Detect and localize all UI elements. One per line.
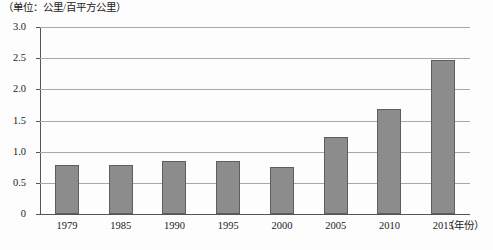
chart-unit-caption: （单位：公里/百平方公里） (3, 1, 126, 15)
bar (109, 165, 133, 214)
gridline (40, 121, 470, 122)
y-axis-tick (36, 214, 40, 215)
gridline (40, 152, 470, 153)
bar (162, 161, 186, 214)
x-axis-title: （年份） (444, 220, 484, 232)
y-axis-tick (36, 27, 40, 28)
y-axis-tick (36, 89, 40, 90)
gridline (40, 27, 470, 28)
bar (270, 167, 294, 214)
y-axis-tick (36, 121, 40, 122)
y-axis-label: 1.0 (13, 146, 26, 157)
bar (377, 109, 401, 214)
y-axis-tick (36, 58, 40, 59)
x-axis-label: 1995 (218, 220, 239, 232)
y-axis-tick (36, 152, 40, 153)
x-axis-label: 2000 (271, 220, 292, 232)
bar (55, 165, 79, 214)
bar (431, 60, 455, 214)
bar (324, 137, 348, 214)
y-axis-label: 2.0 (13, 84, 26, 95)
y-axis-label: 0.5 (13, 178, 26, 189)
y-axis-label: 0 (21, 209, 26, 220)
gridline (40, 183, 470, 184)
y-axis-label: 1.5 (13, 115, 26, 126)
x-axis-label: 2005 (325, 220, 346, 232)
bar (216, 161, 240, 214)
x-axis-label: 1979 (56, 220, 77, 232)
y-axis-label: 3.0 (13, 22, 26, 33)
x-axis-label: 1990 (164, 220, 185, 232)
y-axis-label: 2.5 (13, 53, 26, 64)
bar-chart: （单位：公里/百平方公里） 00.51.01.52.02.53.0 197919… (0, 0, 493, 250)
x-axis-baseline (40, 214, 470, 215)
y-axis-tick (36, 183, 40, 184)
gridline (40, 58, 470, 59)
x-axis-label: 2010 (379, 220, 400, 232)
x-axis-label: 1985 (110, 220, 131, 232)
plot-area: 00.51.01.52.02.53.0 (40, 27, 470, 214)
gridline (40, 89, 470, 90)
